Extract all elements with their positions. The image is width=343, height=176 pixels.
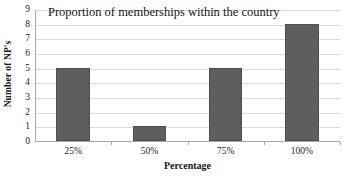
y-axis-tick-label: 6	[25, 49, 30, 59]
y-axis-tick-label: 4	[25, 79, 30, 89]
bar	[133, 126, 167, 141]
y-axis-tick-label: 0	[25, 137, 30, 147]
y-axis-tick-label: 8	[25, 20, 30, 30]
x-axis-tick-label: 75%	[217, 146, 234, 156]
x-axis-tick-mark	[340, 142, 341, 145]
bar-chart: Number of NP's 0123456789 Proportion of …	[0, 0, 343, 176]
y-axis-tick-label: 3	[25, 93, 30, 103]
bar	[209, 68, 243, 141]
bar	[56, 68, 90, 141]
x-axis-tick-label: 50%	[141, 146, 158, 156]
y-axis-title-label: Number of NP's	[3, 41, 13, 108]
bar	[285, 24, 319, 141]
y-axis-title: Number of NP's	[0, 0, 16, 148]
x-axis-tick-mark	[264, 142, 265, 145]
x-axis-tick-label: 25%	[64, 146, 81, 156]
y-axis-tick-labels: 0123456789	[16, 10, 32, 142]
plot-area	[35, 10, 340, 142]
y-axis-tick-label: 1	[25, 123, 30, 133]
y-axis-tick-label: 9	[25, 5, 30, 15]
y-axis-tick-label: 2	[25, 108, 30, 118]
y-axis-tick-label: 5	[25, 64, 30, 74]
chart-title: Proportion of memberships within the cou…	[48, 5, 280, 20]
x-axis-tick-labels: 25%50%75%100%	[35, 146, 340, 160]
x-axis-title: Percentage	[35, 160, 340, 171]
y-axis-tick-label: 7	[25, 35, 30, 45]
bars	[35, 10, 340, 142]
x-axis-tick-mark	[111, 142, 112, 145]
x-axis-tick-mark	[188, 142, 189, 145]
x-axis-tick-label: 100%	[291, 146, 313, 156]
